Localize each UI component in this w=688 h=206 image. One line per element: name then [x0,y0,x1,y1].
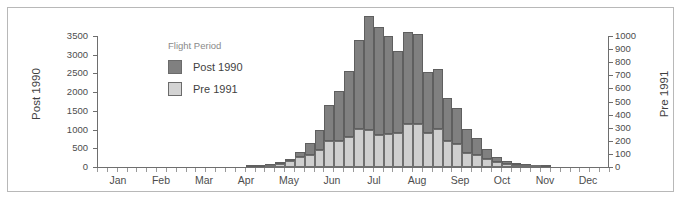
bar-segment-post-1990 [344,71,354,137]
bar-segment-post-1990 [374,27,384,135]
bar-segment-pre-1991 [502,164,512,167]
bar-segment-post-1990 [315,130,325,150]
bar-segment-post-1990 [324,105,334,142]
legend-swatch-post-1990 [168,60,182,74]
x-tick-mark [205,168,206,172]
x-tick-mark [570,168,571,172]
bar-segment-post-1990 [354,40,364,129]
left-tick-label: 1500 [8,105,88,116]
bar-segment-pre-1991 [393,133,403,167]
bar-column [334,91,344,167]
bar-segment-pre-1991 [315,150,325,167]
x-tick-mark [166,168,167,172]
bar-column [462,129,472,167]
left-tick-mark [93,73,97,74]
x-tick-mark [589,168,590,172]
bar-column [452,108,462,167]
x-tick-mark [481,168,482,172]
chart-frame: 0500100015002000250030003500 01002003004… [7,7,674,192]
bar-segment-post-1990 [472,138,482,154]
bar-segment-pre-1991 [265,165,275,167]
x-tick-mark [422,168,423,172]
bar-column [315,130,325,167]
x-tick-mark [127,168,128,172]
bar-segment-pre-1991 [433,129,443,167]
x-tick-mark [215,168,216,172]
legend-title: Flight Period [168,40,243,51]
x-tick-mark [579,168,580,172]
right-tick-label: 0 [615,161,655,172]
bar-column [531,166,541,167]
bar-segment-pre-1991 [344,137,354,167]
bar-column [502,161,512,167]
bar-segment-post-1990 [452,108,462,144]
x-tick-mark [599,168,600,172]
bar-segment-pre-1991 [364,130,374,167]
left-tick-label: 3500 [8,30,88,41]
bar-column [521,165,531,167]
legend-label-pre-1991: Pre 1991 [193,83,238,95]
chart-legend: Flight Period Post 1990 Pre 1991 [168,40,243,104]
x-axis-month-label: Dec [563,174,613,186]
bar-segment-post-1990 [423,72,433,133]
bar-segment-pre-1991 [413,124,423,167]
x-tick-mark [402,168,403,172]
x-tick-mark [294,168,295,172]
right-tick-mark [609,36,613,37]
x-tick-mark [412,168,413,172]
bar-column [443,98,453,167]
bar-segment-pre-1991 [275,164,285,167]
x-tick-mark [383,168,384,172]
left-tick-label: 0 [8,161,88,172]
x-tick-mark [314,168,315,172]
bar-column [413,33,423,167]
x-tick-mark [323,168,324,172]
left-tick-label: 1000 [8,124,88,135]
bar-segment-pre-1991 [324,141,334,167]
right-tick-label: 600 [615,82,655,93]
x-tick-mark [609,168,610,172]
left-tick-mark [93,148,97,149]
right-tick-label: 300 [615,122,655,133]
bar-column [482,149,492,167]
bar-segment-pre-1991 [443,141,453,167]
bar-column [403,32,413,167]
legend-swatch-pre-1991 [168,82,182,96]
x-tick-mark [97,168,98,172]
bar-column [374,27,384,167]
legend-item-post-1990[interactable]: Post 1990 [168,60,243,74]
bar-segment-pre-1991 [482,159,492,168]
left-tick-label: 2500 [8,67,88,78]
x-tick-mark [176,168,177,172]
bar-segment-post-1990 [541,165,551,167]
bar-segment-post-1990 [246,165,256,167]
bar-column [324,105,334,167]
x-tick-mark [451,168,452,172]
x-tick-mark [540,168,541,172]
left-tick-mark [93,36,97,37]
bar-column [492,157,502,167]
bar-segment-pre-1991 [472,155,482,167]
bar-column [423,72,433,167]
x-tick-mark [520,168,521,172]
right-tick-mark [609,115,613,116]
bar-segment-pre-1991 [354,129,364,167]
bar-segment-post-1990 [403,32,413,123]
legend-item-pre-1991[interactable]: Pre 1991 [168,82,243,96]
x-tick-mark [373,168,374,172]
left-tick-mark [93,55,97,56]
bar-column [433,69,443,167]
bar-segment-pre-1991 [531,165,541,167]
x-tick-mark [304,168,305,172]
legend-label-post-1990: Post 1990 [193,61,243,73]
bar-segment-pre-1991 [462,153,472,167]
right-tick-mark [609,62,613,63]
bar-column [275,163,285,167]
chart-figure: 0500100015002000250030003500 01002003004… [0,0,688,206]
x-tick-mark [195,168,196,172]
bar-segment-post-1990 [384,36,394,134]
bar-segment-post-1990 [433,69,443,129]
right-tick-mark [609,102,613,103]
x-tick-mark [511,168,512,172]
x-tick-mark [530,168,531,172]
